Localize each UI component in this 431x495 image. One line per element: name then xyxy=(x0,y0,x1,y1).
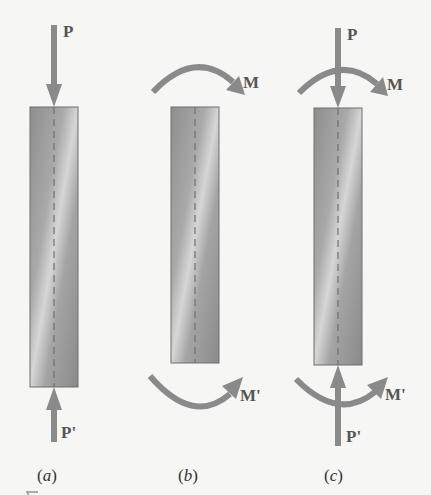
label-p-prime-a: P' xyxy=(61,423,76,442)
figure-canvas: P P' M M' P M M' P' (a) (b) (c) xyxy=(0,0,431,495)
arrowhead-down-icon xyxy=(330,86,346,108)
label-m-prime-b: M' xyxy=(240,386,261,405)
caption-a: (a) xyxy=(37,466,57,485)
caption-c: (c) xyxy=(324,466,343,485)
arrowhead-up-icon xyxy=(330,365,346,388)
moment-arrow-m-b xyxy=(153,67,233,92)
arrowhead-up-icon xyxy=(46,387,62,410)
label-p-a: P xyxy=(63,22,73,41)
arrowhead-down-icon xyxy=(46,84,62,107)
label-p-c: P xyxy=(347,25,357,44)
panel-c xyxy=(296,28,388,446)
label-m-b: M xyxy=(243,73,259,92)
panel-a xyxy=(30,25,78,442)
label-m-prime-c: M' xyxy=(385,385,406,404)
label-p-prime-c: P' xyxy=(346,427,361,446)
moment-arrow-m-prime-b xyxy=(150,376,230,406)
caption-b: (b) xyxy=(178,466,198,485)
label-m-c: M xyxy=(387,75,403,94)
panel-b xyxy=(150,67,245,406)
